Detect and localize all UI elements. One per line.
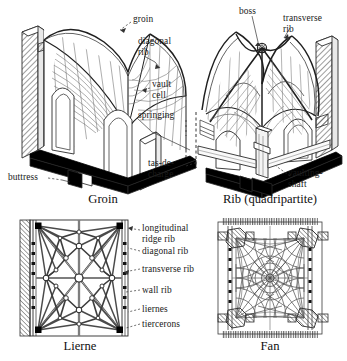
- fan-central-boss: [248, 256, 292, 300]
- label-tas-de-charge: tas-de- charge: [148, 158, 174, 179]
- label-vault-cell: vault cell: [152, 79, 171, 100]
- lierne-vault-plan: [20, 220, 128, 336]
- label-liernes: liernes: [142, 304, 168, 315]
- label-groin: groin: [133, 14, 153, 25]
- caption-groin: Groin: [60, 192, 146, 207]
- caption-rib-quadripartite: Rib (quadripartite): [194, 192, 346, 207]
- label-transverse-rib-plan: transverse rib: [142, 264, 194, 275]
- label-transverse-rib: transverse rib: [283, 13, 322, 34]
- label-longitudinal-ridge-rib: longitudinal ridge rib: [142, 223, 189, 244]
- label-buttress: buttress: [8, 172, 38, 183]
- label-springing: springing: [138, 110, 174, 121]
- label-diagonal-rib-plan: diagonal rib: [142, 246, 188, 257]
- label-boss: boss: [239, 6, 256, 17]
- label-wall-rib: wall rib: [142, 285, 172, 296]
- caption-fan: Fan: [230, 339, 310, 354]
- label-tiercerons: tiercerons: [142, 319, 180, 330]
- fan-vault-plan: [218, 218, 328, 338]
- label-vaulting-shaft: vaulting- shaft: [288, 168, 323, 189]
- vaulting-shaft-column: [254, 126, 272, 178]
- label-diagonal-rib: diagonal rib: [138, 36, 171, 57]
- caption-lierne: Lierne: [30, 339, 130, 354]
- vault-diagram-page: groin diagonal rib vault cell springing …: [0, 0, 347, 361]
